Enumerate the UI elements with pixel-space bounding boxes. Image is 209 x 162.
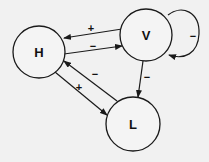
edge-sign-l-to-h: − [92, 68, 98, 80]
node-label-h: H [34, 45, 43, 60]
edge-sign-h-to-v: − [90, 40, 96, 52]
edge-arrow-v-to-l [138, 61, 143, 97]
feedback-diagram: HVL +−+−−− [0, 0, 209, 162]
node-label-l: L [129, 117, 137, 132]
node-l: L [106, 97, 160, 151]
edge-sign-h-to-l: + [76, 81, 82, 93]
edge-sign-v-to-h: + [88, 22, 94, 34]
edge-arrow-l-to-h [64, 61, 117, 101]
edge-sign-v-to-v: − [190, 30, 196, 42]
node-label-v: V [142, 28, 151, 43]
edge-arrow-h-to-l [55, 72, 107, 115]
edge-sign-v-to-l: − [144, 71, 150, 83]
node-v: V [120, 9, 172, 61]
node-h: H [13, 26, 65, 78]
